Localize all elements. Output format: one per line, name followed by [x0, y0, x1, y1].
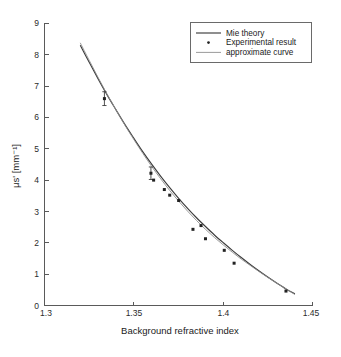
- y-tick-label: 6: [34, 112, 39, 122]
- x-tick-label: 1.45: [303, 308, 320, 318]
- y-tick-3: 3: [34, 207, 48, 217]
- y-tick-label: 8: [34, 50, 39, 60]
- y-tick-label: 4: [34, 175, 39, 185]
- legend-label: Mie theory: [226, 29, 265, 38]
- y-tick-2: 2: [34, 238, 48, 248]
- scatter-series-experimental-result: [102, 92, 287, 293]
- x-axis-ticks: 1.3 1.35 1.4 1.45: [40, 302, 319, 319]
- data-point: [177, 199, 180, 202]
- data-point: [168, 194, 171, 197]
- x-tick-1-45: 1.45: [303, 302, 320, 319]
- y-axis-ticks: 0 1 2 3 4 5 6: [34, 18, 48, 310]
- x-axis-title: Background refractive index: [121, 325, 239, 336]
- legend-label: Experimental result: [226, 38, 297, 47]
- data-point: [204, 237, 207, 240]
- axes-group: [45, 23, 314, 306]
- y-tick-label: 7: [34, 81, 39, 91]
- x-tick-label: 1.4: [217, 308, 229, 318]
- y-tick-1: 1: [34, 269, 48, 279]
- y-tick-7: 7: [34, 81, 48, 91]
- curve-approximate: [80, 43, 295, 295]
- curve-mie-theory: [80, 45, 295, 294]
- data-point: [200, 224, 203, 227]
- y-tick-label: 2: [34, 238, 39, 248]
- data-point: [103, 97, 106, 100]
- x-tick-1-35: 1.35: [126, 302, 143, 319]
- data-series-layer: [80, 43, 295, 295]
- data-point: [152, 179, 155, 182]
- data-point: [233, 262, 236, 265]
- chart-figure: 0 1 2 3 4 5 6: [0, 0, 341, 357]
- data-point: [163, 188, 166, 191]
- data-point: [149, 172, 152, 175]
- y-tick-4: 4: [34, 175, 48, 185]
- x-tick-1-30: 1.3: [40, 302, 52, 319]
- x-tick-label: 1.3: [40, 308, 52, 318]
- y-tick-label: 5: [34, 144, 39, 154]
- legend-label: approximate curve: [226, 48, 294, 57]
- y-tick-label: 3: [34, 207, 39, 217]
- y-tick-5: 5: [34, 144, 48, 154]
- data-point: [284, 290, 287, 293]
- y-tick-label: 1: [34, 269, 39, 279]
- y-tick-6: 6: [34, 112, 48, 122]
- y-tick-8: 8: [34, 50, 48, 60]
- legend: Mie theory Experimental result approxima…: [191, 23, 312, 63]
- legend-dot-icon: [207, 41, 210, 44]
- y-tick-label: 9: [34, 18, 39, 28]
- y-tick-label: 0: [34, 301, 39, 311]
- x-tick-label: 1.35: [126, 308, 143, 318]
- data-point: [223, 249, 226, 252]
- y-tick-9: 9: [34, 18, 48, 28]
- x-tick-1-40: 1.4: [217, 302, 229, 319]
- y-axis-title: μs' [mm⁻¹]: [10, 144, 21, 188]
- scatter-line-plot: 0 1 2 3 4 5 6: [0, 0, 341, 357]
- data-point: [191, 228, 194, 231]
